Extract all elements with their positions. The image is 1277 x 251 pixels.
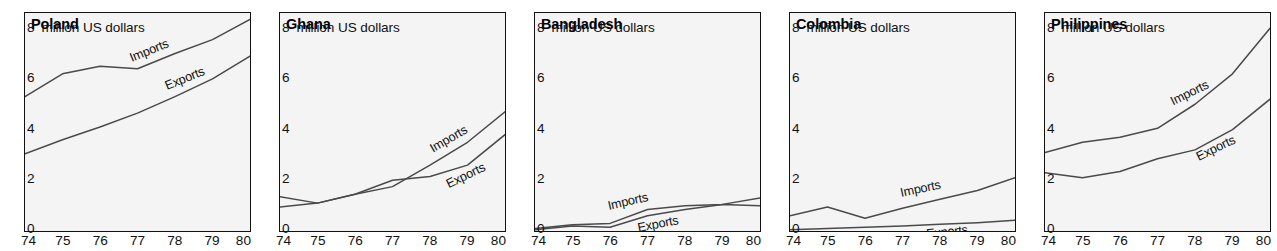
x-tick-76: 76 [93,233,108,248]
x-tick-76: 76 [348,233,363,248]
series-labels: ImportsImportsExportsExports [25,13,250,231]
x-axis: 74757677787980 [789,233,1016,251]
x-axis: 74757677787980 [534,233,761,251]
y-tick-4: 4 [27,121,35,136]
x-tick-80: 80 [746,233,761,248]
x-tick-76: 76 [603,233,618,248]
x-tick-78: 78 [167,233,182,248]
unit-caption: 8million US dollars [792,20,910,35]
series-label-imports: Imports [606,190,649,213]
x-tick-75: 75 [565,233,580,248]
x-tick-76: 76 [1113,233,1128,248]
plot-frame: ImportsImportsExportsExports [789,12,1016,232]
y-tick-4: 4 [792,121,800,136]
series-labels: ImportsImportsExportsExports [790,13,1015,231]
unit-caption-text: million US dollars [806,20,909,35]
x-tick-74: 74 [276,233,291,248]
y-tick-2: 2 [282,171,290,186]
x-tick-74: 74 [21,233,36,248]
y-tick-6: 6 [282,70,290,85]
y-tick-2: 2 [1047,171,1055,186]
y-tick-6: 6 [1047,70,1055,85]
x-tick-74: 74 [1041,233,1056,248]
x-tick-76: 76 [858,233,873,248]
y-tick-6: 6 [27,70,35,85]
unit-caption-text: million US dollars [296,20,399,35]
series-labels: ImportsImportsExportsExports [535,13,760,231]
y-tick-8: 8 [282,20,289,35]
series-labels: ImportsImportsExportsExports [280,13,505,231]
chart-panel-colombia: ImportsImportsExportsExportsColombia8642… [765,0,1020,251]
series-label-imports: Imports [427,123,469,156]
plot-frame: ImportsImportsExportsExports [1044,12,1271,232]
x-tick-77: 77 [385,233,400,248]
series-label-exports: Exports [636,213,679,231]
x-tick-78: 78 [932,233,947,248]
unit-caption: 8million US dollars [1047,20,1165,35]
small-multiples-trade-chart: ImportsImportsExportsExportsPoland864208… [0,0,1277,251]
x-tick-75: 75 [310,233,325,248]
x-tick-79: 79 [970,233,985,248]
x-tick-74: 74 [531,233,546,248]
x-tick-75: 75 [1075,233,1090,248]
y-tick-2: 2 [792,171,800,186]
x-tick-80: 80 [236,233,251,248]
x-tick-75: 75 [820,233,835,248]
x-tick-77: 77 [130,233,145,248]
x-tick-79: 79 [460,233,475,248]
series-label-exports: Exports [444,160,487,191]
unit-caption-text: million US dollars [41,20,144,35]
chart-panel-ghana: ImportsImportsExportsExportsGhana864208m… [255,0,510,251]
chart-panel-philippines: ImportsImportsExportsExportsPhilippines8… [1020,0,1275,251]
y-tick-8: 8 [792,20,799,35]
plot-frame: ImportsImportsExportsExports [279,12,506,232]
y-tick-8: 8 [537,20,544,35]
x-tick-77: 77 [895,233,910,248]
x-tick-75: 75 [55,233,70,248]
y-tick-6: 6 [792,70,800,85]
series-label-imports: Imports [1168,78,1211,108]
unit-caption: 8million US dollars [537,20,655,35]
chart-panel-bangladesh: ImportsImportsExportsExportsBangladesh86… [510,0,765,251]
y-tick-2: 2 [27,171,35,186]
x-axis: 74757677787980 [24,233,251,251]
series-label-exports: Exports [163,64,207,93]
unit-caption: 8million US dollars [282,20,400,35]
x-axis: 74757677787980 [1044,233,1271,251]
series-label-exports: Exports [926,223,969,231]
x-tick-78: 78 [677,233,692,248]
x-tick-78: 78 [422,233,437,248]
y-tick-4: 4 [537,121,545,136]
x-tick-77: 77 [640,233,655,248]
y-tick-4: 4 [1047,121,1055,136]
y-tick-4: 4 [282,121,290,136]
x-tick-80: 80 [491,233,506,248]
chart-panel-poland: ImportsImportsExportsExportsPoland864208… [0,0,255,251]
x-tick-79: 79 [1225,233,1240,248]
x-axis: 74757677787980 [279,233,506,251]
series-label-imports: Imports [128,37,171,65]
x-tick-80: 80 [1001,233,1016,248]
series-labels: ImportsImportsExportsExports [1045,13,1270,231]
unit-caption: 8million US dollars [27,20,145,35]
unit-caption-text: million US dollars [551,20,654,35]
x-tick-79: 79 [715,233,730,248]
x-tick-78: 78 [1187,233,1202,248]
plot-frame: ImportsImportsExportsExports [534,12,761,232]
y-tick-2: 2 [537,171,545,186]
y-tick-8: 8 [27,20,34,35]
x-tick-74: 74 [786,233,801,248]
unit-caption-text: million US dollars [1061,20,1164,35]
series-label-exports: Exports [1194,133,1237,164]
plot-frame: ImportsImportsExportsExports [24,12,251,232]
series-label-imports: Imports [899,178,942,200]
x-tick-77: 77 [1150,233,1165,248]
x-tick-79: 79 [205,233,220,248]
y-tick-6: 6 [537,70,545,85]
x-tick-80: 80 [1256,233,1271,248]
y-tick-8: 8 [1047,20,1054,35]
